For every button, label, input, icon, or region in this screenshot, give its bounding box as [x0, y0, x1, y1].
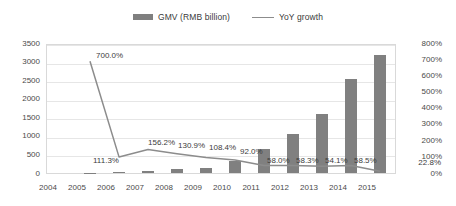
data-label-yoy-2006: 111.3%: [93, 157, 119, 165]
x-axis-tick-2010: 2010: [206, 184, 238, 192]
x-axis-tick-2007: 2007: [119, 184, 151, 192]
x-axis-tick-2011: 2011: [235, 184, 267, 192]
y-axis-left-tick-500: 500: [0, 151, 40, 159]
data-label-yoy-2014: 58.5%: [354, 157, 377, 165]
x-axis-tick-2014: 2014: [322, 184, 354, 192]
x-axis-tick-2006: 2006: [90, 184, 122, 192]
line-swatch-icon: [252, 17, 274, 18]
bar-swatch-icon: [133, 14, 153, 20]
y-axis-right-tick-800: 800%: [402, 40, 442, 48]
y-axis-left-tick-3000: 3000: [0, 58, 40, 66]
y-axis-right-tick-0: 0%: [402, 170, 442, 178]
y-axis-right-tick-600: 600%: [402, 72, 442, 80]
data-label-yoy-2012: 58.3%: [296, 157, 319, 165]
y-axis-left-tick-3500: 3500: [0, 40, 40, 48]
x-axis-tick-2012: 2012: [264, 184, 296, 192]
y-axis-right-tick-400: 400%: [402, 104, 442, 112]
legend-item-gmv[interactable]: GMV (RMB billion): [133, 12, 230, 22]
legend-item-yoy-growth[interactable]: YoY growth: [252, 12, 323, 22]
x-axis-tick-2004: 2004: [32, 184, 64, 192]
data-label-yoy-2007: 156.2%: [148, 139, 175, 147]
data-label-yoy-2010: 92.0%: [240, 148, 263, 156]
chart-legend: GMV (RMB billion) YoY growth: [0, 8, 456, 26]
x-axis-tick-2009: 2009: [177, 184, 209, 192]
data-label-yoy-2005: 700.0%: [96, 52, 123, 60]
legend-item-gmv-label: GMV (RMB billion): [158, 12, 230, 22]
y-axis-right-tick-700: 700%: [402, 56, 442, 64]
y-axis-left-tick-0: 0: [0, 170, 40, 178]
y-axis-left-tick-2500: 2500: [0, 77, 40, 85]
gmv-yoy-growth-combo-chart: GMV (RMB billion) YoY growth 3500 3000 2…: [0, 0, 456, 206]
data-label-yoy-2011: 58.0%: [267, 157, 290, 165]
y-axis-left-tick-1500: 1500: [0, 114, 40, 122]
data-label-yoy-2015: 22.8%: [397, 159, 441, 167]
data-label-yoy-2008: 130.9%: [178, 142, 205, 150]
x-axis-tick-2015: 2015: [351, 184, 383, 192]
legend-item-yoy-growth-label: YoY growth: [279, 12, 323, 22]
data-label-yoy-2013: 54.1%: [325, 157, 348, 165]
y-axis-left-tick-2000: 2000: [0, 95, 40, 103]
y-axis-right-tick-500: 500%: [402, 88, 442, 96]
y-axis-right-tick-300: 300%: [402, 120, 442, 128]
y-axis-left-tick-1000: 1000: [0, 132, 40, 140]
data-label-yoy-2009: 108.4%: [209, 144, 236, 152]
y-axis-right-tick-200: 200%: [402, 137, 442, 145]
x-axis-tick-2005: 2005: [61, 184, 93, 192]
x-axis-tick-2013: 2013: [293, 184, 325, 192]
x-axis-tick-2008: 2008: [148, 184, 180, 192]
plot-area: 700.0% 111.3% 156.2% 130.9% 108.4% 92.0%…: [46, 44, 396, 174]
